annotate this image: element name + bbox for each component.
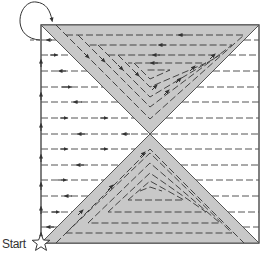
start-label: Start xyxy=(2,237,26,251)
bowtie-path-diagram xyxy=(0,0,274,263)
